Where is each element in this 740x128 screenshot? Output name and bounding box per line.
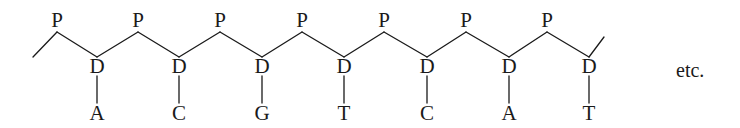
- backbone-lines: [0, 0, 740, 128]
- deoxyribose-label: D: [501, 56, 516, 77]
- phosphate-label: P: [214, 10, 226, 31]
- continuation-label: etc.: [676, 60, 704, 80]
- dna-backbone-diagram: PPPPPPPDADCDGDTDCDADT etc.: [0, 0, 740, 128]
- base-label: C: [172, 103, 186, 124]
- base-label: A: [89, 103, 104, 124]
- base-label: A: [501, 103, 516, 124]
- deoxyribose-label: D: [254, 56, 269, 77]
- backbone-stub-left: [33, 32, 57, 57]
- phosphate-label: P: [378, 10, 390, 31]
- deoxyribose-label: D: [171, 56, 186, 77]
- phosphate-label: P: [51, 10, 63, 31]
- phosphate-label: P: [296, 10, 308, 31]
- phosphate-label: P: [460, 10, 472, 31]
- base-label: C: [420, 103, 434, 124]
- deoxyribose-label: D: [419, 56, 434, 77]
- deoxyribose-label: D: [89, 56, 104, 77]
- base-label: T: [583, 103, 596, 124]
- phosphate-label: P: [541, 10, 553, 31]
- deoxyribose-label: D: [336, 56, 351, 77]
- base-label: G: [254, 103, 269, 124]
- phosphate-label: P: [132, 10, 144, 31]
- base-label: T: [338, 103, 351, 124]
- deoxyribose-label: D: [581, 56, 596, 77]
